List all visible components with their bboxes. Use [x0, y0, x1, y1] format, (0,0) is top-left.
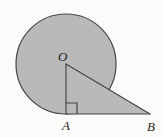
- vertex-label-O: O: [58, 50, 67, 63]
- figure-canvas: [0, 0, 163, 137]
- shaded-region: [16, 14, 150, 114]
- vertex-label-B: B: [147, 120, 155, 133]
- vertex-label-A: A: [62, 119, 70, 132]
- geometry-figure: O A B: [0, 0, 163, 137]
